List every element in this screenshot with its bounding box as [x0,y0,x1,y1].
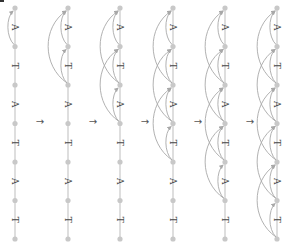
base-label: T [272,217,282,223]
chain-node [12,82,17,87]
chain-node [65,159,70,164]
chain-node [117,44,122,49]
base-label: T [220,217,230,223]
base-label: A [168,23,178,31]
chain-node [12,236,17,241]
chain-node [222,198,227,203]
base-label: T [115,63,125,69]
base-label: A [63,177,73,185]
chain-node [170,5,175,10]
chain-node [274,82,279,87]
base-label: T [220,63,230,69]
chain-node [222,5,227,10]
chain-column-1: ATATAT [8,5,20,241]
chain-node [274,198,279,203]
skip-arc [205,11,224,83]
skip-arc [205,50,224,122]
chain-node [12,121,17,126]
base-label: A [220,23,230,31]
chain-node [117,236,122,241]
base-label: T [63,217,73,223]
base-label: T [272,63,282,69]
base-label: A [115,23,125,31]
transition-arrow-icon: → [246,116,254,127]
base-label: A [272,23,282,31]
skip-arc [257,165,276,237]
chain-node [12,44,17,49]
chain-node [222,236,227,241]
skip-arc [257,127,276,199]
chain-node [12,198,17,203]
chain-node [65,121,70,126]
base-label: T [220,140,230,146]
skip-arc [48,11,67,83]
chain-node [170,82,175,87]
base-label: A [168,177,178,185]
base-label: T [168,63,178,69]
skip-arc [153,50,172,122]
chain-node [274,121,279,126]
transition-arrow-icon: → [89,116,97,127]
chain-node [65,198,70,203]
skip-arc [153,88,172,160]
chain-node [274,5,279,10]
skip-arc [205,127,224,199]
base-label: A [220,177,230,185]
chain-node [117,121,122,126]
chain-node [65,82,70,87]
base-label: T [63,63,73,69]
base-label: A [10,23,20,31]
base-label: A [115,100,125,108]
chain-node [170,159,175,164]
chain-column-3: ATATAT [100,5,125,241]
base-label: A [63,23,73,31]
skip-arc [205,88,224,160]
base-label: T [10,140,20,146]
transition-arrow-icon: → [141,116,149,127]
base-label: A [168,100,178,108]
base-label: A [10,100,20,108]
chain-node [12,159,17,164]
chain-node [170,198,175,203]
chain-node [117,159,122,164]
chain-node [222,44,227,49]
base-label: T [10,63,20,69]
skip-arc [100,50,119,122]
chain-node [117,5,122,10]
chain-column-5: ATATAT [205,5,230,241]
chain-diagram: ATATATATATATATATATATATATATATATATATAT →→→… [0,0,285,243]
chain-node [117,82,122,87]
chain-column-4: ATATAT [153,5,178,241]
chain-node [65,44,70,49]
skip-arc [153,11,172,83]
chain-node [12,5,17,10]
base-label: T [168,217,178,223]
chain-node [222,121,227,126]
base-label: A [10,177,20,185]
base-label: A [272,100,282,108]
chain-column-2: ATATAT [48,5,73,241]
base-label: T [115,217,125,223]
transition-arrow-icon: → [36,116,44,127]
chain-column-6: ATATAT [257,5,282,241]
chain-node [170,236,175,241]
chain-node [274,236,279,241]
chain-node [222,82,227,87]
chain-node [170,44,175,49]
base-label: T [115,140,125,146]
base-label: A [220,100,230,108]
skip-arc [100,11,119,83]
chain-node [274,159,279,164]
base-label: T [10,217,20,223]
transition-arrow-icon: → [194,116,202,127]
skip-arc [257,88,276,160]
chain-node [274,44,279,49]
base-label: A [115,177,125,185]
base-label: T [272,140,282,146]
chain-node [117,198,122,203]
skip-arc [257,50,276,122]
base-label: T [63,140,73,146]
chain-node [170,121,175,126]
chain-node [222,159,227,164]
skip-arc [257,11,276,83]
